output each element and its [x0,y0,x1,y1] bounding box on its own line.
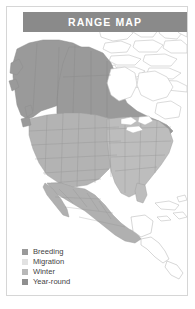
legend-swatch-year-round [22,279,28,285]
legend-label-breeding: Breeding [33,248,63,256]
legend-swatch-migration [22,259,28,265]
map-legend: Breeding Migration Winter Year-round [22,248,70,286]
page-title: RANGE MAP [68,17,142,28]
legend-item-migration: Migration [22,258,70,266]
legend-label-migration: Migration [33,258,64,266]
legend-item-year-round: Year-round [22,278,70,286]
legend-swatch-winter [22,269,28,275]
range-map-card: RANGE MAP Breeding Migration Winter Year… [6,6,188,296]
legend-label-year-round: Year-round [33,278,70,286]
map-title-bar: RANGE MAP [23,12,187,32]
legend-swatch-breeding [22,249,28,255]
legend-label-winter: Winter [33,268,55,276]
legend-item-breeding: Breeding [22,248,70,256]
legend-item-winter: Winter [22,268,70,276]
